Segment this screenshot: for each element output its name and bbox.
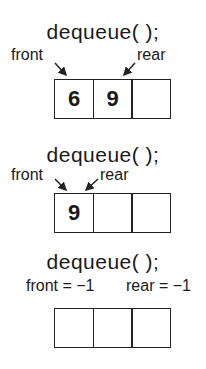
rear-arrow-icon (86, 179, 98, 190)
front-arrow-icon (55, 63, 66, 75)
pointer-arrows (0, 0, 206, 369)
front-arrow-icon (55, 179, 66, 190)
rear-arrow-icon (124, 63, 135, 75)
